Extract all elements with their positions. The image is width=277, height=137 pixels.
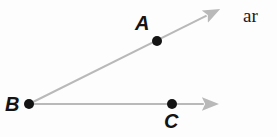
- adjacent-text-fragment: ar: [243, 5, 277, 27]
- point-c-dot: [167, 99, 177, 109]
- points-group: [24, 36, 177, 109]
- point-label-b: B: [5, 94, 19, 114]
- rays-group: [29, 16, 207, 104]
- point-label-c: C: [164, 111, 178, 131]
- ray-b-to-a: [29, 16, 207, 104]
- angle-diagram-figure: A B C ar: [0, 0, 277, 137]
- point-label-a: A: [135, 13, 149, 33]
- point-b-vertex-dot: [24, 99, 34, 109]
- point-a-dot: [152, 36, 162, 46]
